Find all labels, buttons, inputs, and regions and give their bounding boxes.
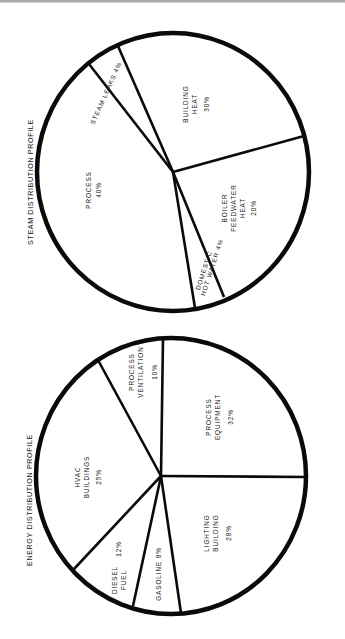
energy-slice-lighting-building: LIGHTING BUILDING 28% bbox=[203, 514, 232, 551]
steam-distribution-chart: STEAM DISTRIBUTION PROFILE PROCESS 40% S… bbox=[26, 33, 309, 311]
label-boiler-line3: HEAT bbox=[239, 198, 246, 218]
label-diesel-value: 12% bbox=[115, 541, 122, 557]
divider-ventilation-equipment bbox=[161, 338, 163, 476]
label-hvac-value: 25% bbox=[95, 469, 102, 485]
label-boiler-line2: FEEDWATER bbox=[230, 184, 237, 232]
label-equipment-line1: PROCESS bbox=[205, 398, 212, 436]
label-process-value: 40% bbox=[95, 182, 102, 198]
divider-process-leaks bbox=[89, 64, 173, 172]
energy-chart-title: ENERGY DISTRIBUTION PROFILE bbox=[25, 434, 34, 566]
energy-slice-process-ventilation: PROCESS VENTILATION 10% bbox=[128, 346, 158, 397]
label-diesel-line1: DIESEL bbox=[111, 566, 118, 594]
label-ventilation-line1: PROCESS bbox=[128, 353, 135, 391]
divider-equipment-lighting bbox=[161, 476, 306, 477]
charts-canvas: STEAM DISTRIBUTION PROFILE PROCESS 40% S… bbox=[0, 0, 345, 639]
label-process-name: PROCESS bbox=[85, 171, 92, 209]
label-hvac-line2: BUILDINGS bbox=[83, 456, 90, 499]
label-equipment-line2: EQUIPMENT bbox=[214, 394, 222, 440]
steam-slice-process: PROCESS 40% bbox=[85, 171, 102, 209]
steam-slice-boiler-feedwater: BOILER FEEDWATER HEAT 20% bbox=[221, 184, 257, 232]
divider-building-boiler bbox=[173, 136, 304, 172]
label-building-heat-value: 30% bbox=[203, 96, 210, 112]
label-boiler-line1: BOILER bbox=[221, 194, 228, 223]
energy-slice-gasoline: GASOLINE 8% bbox=[155, 547, 162, 601]
steam-slice-building-heat: BUILDING HEAT 30% bbox=[182, 85, 210, 122]
label-gasoline: GASOLINE 8% bbox=[155, 547, 162, 601]
divider-process-domestic bbox=[173, 172, 195, 308]
energy-slice-process-equipment: PROCESS EQUIPMENT 32% bbox=[205, 394, 234, 440]
label-building-heat-line2: HEAT bbox=[191, 94, 198, 114]
divider-leaks-building bbox=[118, 46, 173, 172]
energy-slice-hvac-buildings: HVAC BUILDINGS 25% bbox=[74, 456, 102, 499]
label-hvac-line1: HVAC bbox=[74, 467, 81, 488]
label-lighting-value: 28% bbox=[225, 525, 232, 541]
label-ventilation-line2: VENTILATION bbox=[137, 346, 144, 397]
label-lighting-line2: BUILDING bbox=[212, 514, 219, 551]
steam-chart-title: STEAM DISTRIBUTION PROFILE bbox=[26, 119, 35, 245]
label-building-heat-line1: BUILDING bbox=[182, 85, 189, 122]
energy-distribution-chart: ENERGY DISTRIBUTION PROFILE PROCESS VENT… bbox=[25, 338, 306, 614]
label-lighting-line1: LIGHTING bbox=[203, 514, 210, 551]
label-equipment-value: 32% bbox=[227, 409, 234, 425]
label-boiler-value: 20% bbox=[250, 200, 257, 216]
label-ventilation-value: 10% bbox=[151, 364, 158, 380]
label-diesel-line2: FUEL bbox=[120, 570, 127, 590]
divider-gasoline-lighting bbox=[161, 476, 181, 613]
energy-slice-diesel-fuel: DIESEL FUEL 12% bbox=[111, 541, 127, 594]
